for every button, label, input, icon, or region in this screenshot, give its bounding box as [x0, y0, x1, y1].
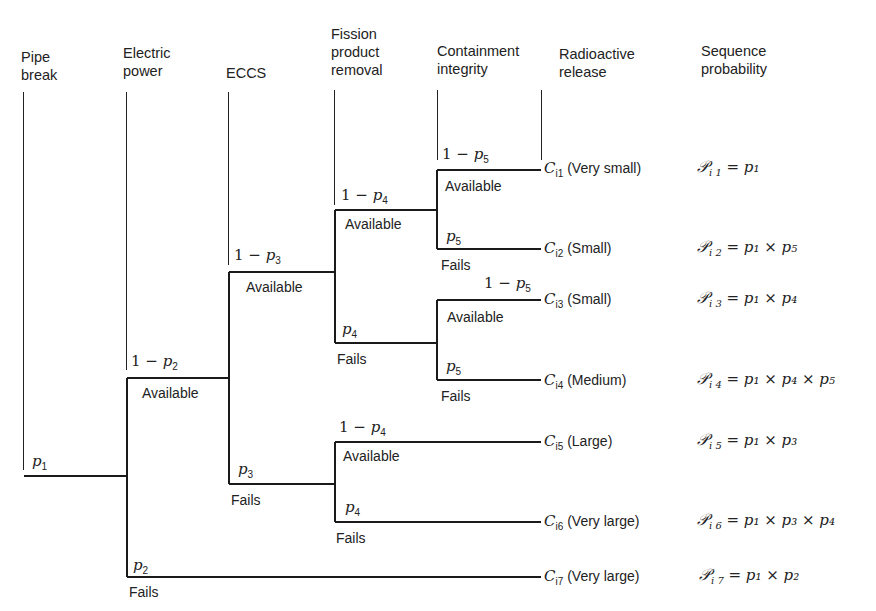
state-electric-fails: Fails [129, 584, 159, 600]
state-fpr-fails-upper: Fails [337, 351, 367, 367]
state-fpr-fails-lower: Fails [336, 530, 366, 546]
prob-1-minus-p4-upper: 1 − p4 [341, 186, 388, 210]
state-fpr-available-lower: Available [343, 448, 400, 464]
state-containment-fails-lower: Fails [441, 388, 471, 404]
prob-p5-lower: p5 [446, 357, 461, 381]
state-electric-available: Available [142, 385, 199, 401]
prob-1-minus-p4-lower: 1 − p4 [339, 418, 386, 442]
prob-p5-upper: p5 [446, 227, 461, 251]
prob-p2: p2 [133, 556, 148, 580]
state-eccs-fails: Fails [231, 492, 261, 508]
header-containment-integrity: Containment integrity [437, 42, 519, 78]
tree-branches [24, 170, 541, 577]
sequence-prob-6: 𝒫i 6 = p₁ × p₃ × p₄ [697, 511, 835, 535]
state-eccs-available: Available [246, 279, 303, 295]
prob-1-minus-p3: 1 − p3 [234, 246, 281, 270]
sequence-prob-1: 𝒫i 1 = p₁ [697, 158, 759, 182]
sequence-prob-3: 𝒫i 3 = p₁ × p₄ [697, 289, 797, 313]
header-electric-power: Electric power [123, 44, 171, 80]
header-fission-product-removal: Fission product removal [331, 25, 383, 79]
header-radioactive-release: Radioactive release [559, 45, 635, 81]
state-containment-fails-upper: Fails [441, 257, 471, 273]
outcome-ci6: Ci6 (Very large) [544, 512, 640, 536]
outcome-ci3: Ci3 (Small) [544, 290, 612, 314]
prob-p4-lower: p4 [345, 498, 360, 522]
outcome-ci4: Ci4 (Medium) [544, 371, 626, 395]
state-fpr-available-upper: Available [345, 216, 402, 232]
outcome-ci2: Ci2 (Small) [544, 239, 612, 263]
outcome-ci1: Ci1 (Very small) [544, 159, 641, 183]
prob-1-minus-p5-upper: 1 − p5 [442, 145, 489, 169]
header-eccs: ECCS [226, 64, 266, 82]
state-containment-available-upper: Available [445, 178, 502, 194]
header-sequence-probability: Sequence probability [701, 42, 767, 78]
prob-p3: p3 [238, 460, 253, 484]
event-tree-diagram: Pipe break Electric power ECCS Fission p… [0, 0, 876, 611]
sequence-prob-2: 𝒫i 2 = p₁ × p₅ [697, 238, 797, 262]
prob-p4-upper: p4 [342, 320, 357, 344]
sequence-prob-5: 𝒫i 5 = p₁ × p₃ [697, 431, 797, 455]
outcome-ci5: Ci5 (Large) [544, 432, 612, 456]
sequence-prob-7: 𝒫i 7 = p₁ × p₂ [699, 566, 799, 590]
outcome-ci7: Ci7 (Very large) [544, 567, 640, 591]
sequence-prob-4: 𝒫i 4 = p₁ × p₄ × p₅ [697, 370, 835, 394]
prob-1-minus-p5-lower: 1 − p5 [484, 274, 531, 298]
state-containment-available-lower: Available [447, 309, 504, 325]
prob-p1: p1 [32, 452, 47, 476]
header-pipe-break: Pipe break [21, 48, 57, 84]
prob-1-minus-p2: 1 − p2 [131, 352, 178, 376]
